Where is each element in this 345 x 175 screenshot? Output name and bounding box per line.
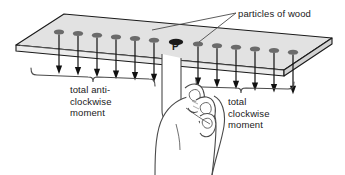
anticlockwise-moment-line-1: total anti- bbox=[70, 84, 112, 96]
diagram-svg bbox=[0, 0, 345, 175]
anticlockwise-moment-line-3: moment bbox=[70, 107, 112, 119]
pivot-label: P bbox=[172, 41, 179, 53]
anticlockwise-moment-line-2: clockwise bbox=[70, 96, 112, 108]
anticlockwise-moment-label: total anti- clockwise moment bbox=[70, 84, 112, 119]
little-finger-nail bbox=[202, 118, 212, 128]
clockwise-moment-label: total clockwise moment bbox=[228, 96, 270, 131]
hand-illustration bbox=[155, 54, 225, 175]
ring-finger-nail bbox=[200, 103, 211, 115]
clockwise-moment-line-1: total bbox=[228, 96, 270, 108]
clockwise-moment-line-2: clockwise bbox=[228, 108, 270, 120]
diagram-canvas: particles of wood P total anti- clockwis… bbox=[0, 0, 345, 175]
clockwise-moment-line-3: moment bbox=[228, 119, 270, 131]
particles-of-wood-label: particles of wood bbox=[238, 8, 311, 20]
right-brace bbox=[196, 80, 294, 93]
